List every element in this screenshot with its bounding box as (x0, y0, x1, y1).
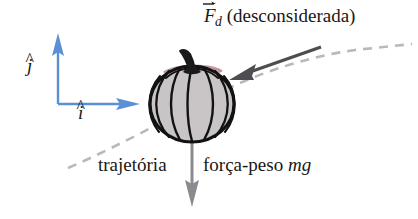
unit-vector-i-label: ^ i (78, 103, 83, 122)
drag-force-arrow (229, 47, 321, 80)
drag-force-vector-symbol: F (204, 6, 216, 25)
drag-force-symbol: F (204, 5, 216, 26)
unit-vector-j-label: ^ j (27, 56, 32, 75)
drag-force-subscript: d (215, 14, 222, 29)
diagram-canvas (0, 0, 418, 219)
pumpkin-object (149, 50, 234, 142)
physics-force-diagram: Fd (desconsiderada) trajetória força-pes… (0, 0, 418, 219)
weight-force-label: força-peso mg (203, 155, 311, 174)
weight-force-symbol: mg (288, 154, 311, 175)
hat-accent-i-icon: ^ (76, 98, 84, 116)
drag-force-label: Fd (desconsiderada) (204, 6, 355, 29)
weight-force-text: força-peso (203, 154, 283, 175)
drag-force-note: (desconsiderada) (227, 5, 356, 26)
coordinate-axes (52, 33, 140, 110)
trajectory-label: trajetória (98, 155, 167, 174)
hat-accent-j-icon: ^ (25, 51, 33, 69)
pumpkin-body (150, 66, 234, 142)
